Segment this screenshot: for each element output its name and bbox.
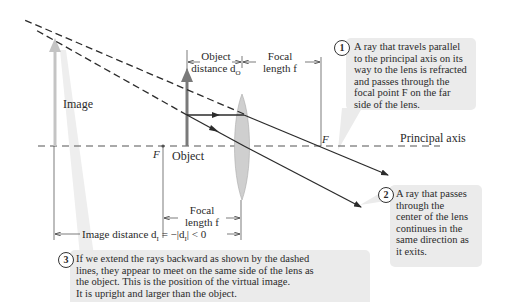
callout-1-number-badge: 1	[334, 40, 350, 56]
ray2-transmitted	[244, 146, 361, 207]
focal-point-right-label: F	[322, 133, 329, 145]
focal-point-left-label: F	[153, 148, 160, 160]
focal-length-bottom-label: Focal length f	[178, 204, 226, 228]
image-label: Image	[63, 98, 93, 110]
callout-1-pointer	[338, 108, 362, 150]
object-distance-line2: distance dO	[190, 62, 242, 79]
object-distance-label: Object distance dO	[190, 50, 242, 79]
callout-3: 3 If we extend the rays backward as show…	[70, 250, 370, 302]
callout-2-text: A ray that passes through the center of …	[396, 188, 482, 258]
callout-1: 1 A ray that travels parallel to the pri…	[346, 38, 476, 110]
callout-2: 2 A ray that passes through the center o…	[390, 185, 482, 267]
callout-1-text: A ray that travels parallel to the princ…	[354, 41, 480, 111]
focal-length-bottom-line1: Focal	[178, 204, 226, 216]
object-label: Object	[172, 150, 204, 162]
ray1-refracted	[244, 115, 388, 175]
image-arrowhead	[49, 38, 61, 52]
ray2-backward-extension	[34, 29, 187, 115]
focal-length-top-line2: length f	[252, 62, 308, 74]
focal-length-top-label: Focal length f	[252, 50, 308, 74]
focal-length-bottom-line2: length f	[178, 216, 226, 228]
object-distance-line1: Object	[190, 50, 242, 62]
principal-axis-label: Principal axis	[400, 132, 466, 144]
ray2-incident-arrowhead	[209, 125, 219, 132]
callout-3-number-badge: 3	[58, 252, 74, 268]
image-distance-label: Image distance dI = −|dI| < 0	[82, 228, 206, 245]
callout-2-number-badge: 2	[378, 187, 394, 203]
callout-3-pointer	[60, 50, 94, 256]
ray1-incident-arrowhead	[212, 112, 220, 118]
callout-3-text: If we extend the rays backward as shown …	[76, 253, 368, 299]
focal-length-top-line1: Focal	[252, 50, 308, 62]
